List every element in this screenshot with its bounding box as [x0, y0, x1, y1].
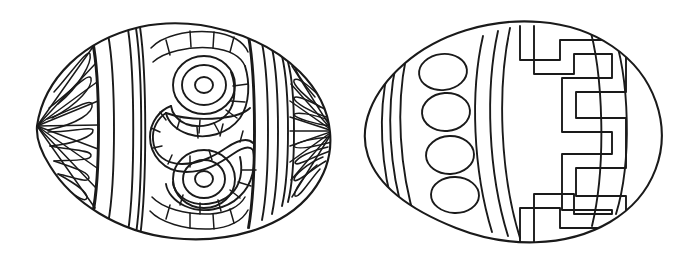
easter-eggs-illustration	[0, 0, 683, 258]
drawing-canvas: Easter Eggs Coloring Line Drawing Left e…	[0, 0, 683, 258]
